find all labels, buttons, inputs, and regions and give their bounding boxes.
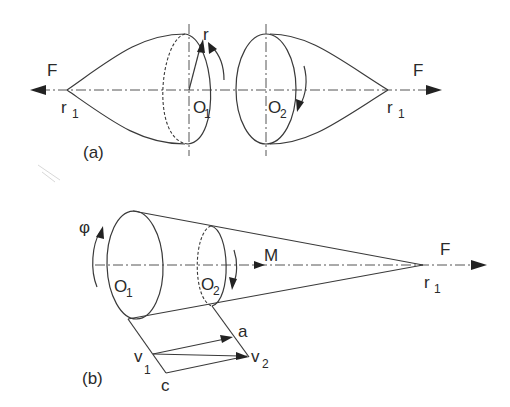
rotation-arrow-o1 [212, 47, 224, 80]
label-v1: v [134, 347, 143, 366]
rotation-arrow-phi [93, 232, 100, 287]
ellipse-b-o2-back [197, 226, 212, 306]
label-v2-sub: 2 [262, 357, 269, 371]
label-moment: M [264, 246, 278, 265]
label-apex-left: r [61, 98, 67, 117]
force-arrow-left-icon [30, 85, 46, 95]
vector-v1-v2 [153, 354, 240, 356]
label-radius: r [203, 25, 209, 44]
label-apex-right-sub: 1 [398, 107, 405, 121]
c-to-v2-line [166, 356, 247, 373]
panel-a-label: (a) [83, 143, 104, 162]
cone-bottom-edge [128, 265, 423, 319]
ellipse-o1-back [163, 34, 188, 144]
rotation-arrow-phi-head-icon [96, 226, 104, 239]
force-arrow-b-icon [471, 260, 487, 270]
label-o1-sub: 1 [204, 107, 211, 121]
label-phi: φ [79, 218, 90, 237]
vector-v1-v2-head-icon [236, 352, 249, 360]
mechanics-diagram: F r 1 O 1 r O 2 F r 1 (a) [0, 0, 510, 407]
rotation-arrow-b-o2-head-icon [229, 277, 237, 290]
panel-a: F r 1 O 1 r O 2 F r 1 (a) [30, 24, 442, 162]
label-v1-sub: 1 [144, 363, 151, 377]
left-body-outline [67, 34, 185, 144]
panel-b-label: (b) [82, 369, 103, 388]
rotation-arrow-o2 [300, 66, 306, 105]
label-force-right: F [413, 61, 423, 80]
rotation-arrow-o2-head-icon [296, 99, 304, 112]
vector-v1-a-head-icon [220, 335, 233, 343]
label-force-left: F [47, 61, 57, 80]
label-b-apex: r [424, 273, 430, 292]
label-apex-right: r [387, 98, 393, 117]
vector-v1-a [153, 339, 225, 354]
label-a: a [238, 322, 248, 341]
label-b-o1-sub: 1 [126, 286, 133, 300]
label-o2-sub: 2 [280, 107, 287, 121]
rotation-arrow-b-o2 [234, 250, 237, 282]
label-c: c [161, 376, 170, 395]
label-v2: v [251, 347, 260, 366]
label-b-o2-sub: 2 [213, 284, 220, 298]
label-apex-left-sub: 1 [72, 107, 79, 121]
label-b-force: F [440, 240, 450, 259]
label-b-apex-sub: 1 [434, 282, 441, 296]
panel-b: φ O 1 O 2 M F r 1 a v 1 v 2 c (b) [79, 210, 487, 395]
force-arrow-right-icon [426, 85, 442, 95]
scan-artifact [38, 165, 60, 182]
